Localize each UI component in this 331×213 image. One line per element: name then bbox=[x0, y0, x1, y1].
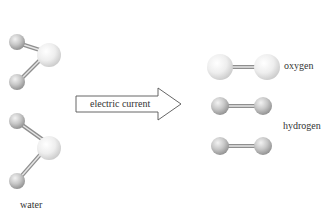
hydrogen-atom bbox=[211, 137, 229, 155]
oxygen-atom bbox=[207, 54, 233, 80]
oxygen-label: oxygen bbox=[284, 61, 313, 71]
oxygen-atom bbox=[37, 43, 61, 67]
hydrogen-atom bbox=[9, 74, 25, 90]
electrolysis-diagram bbox=[0, 0, 331, 213]
oxygen-atom bbox=[37, 136, 61, 160]
hydrogen-label: hydrogen bbox=[283, 121, 321, 131]
hydrogen-atom bbox=[9, 34, 25, 50]
hydrogen-atom bbox=[211, 97, 229, 115]
water-molecule-1 bbox=[9, 34, 61, 90]
water-molecule-2 bbox=[9, 113, 61, 189]
arrow-label: electric current bbox=[90, 99, 150, 109]
oxygen-molecule bbox=[207, 54, 280, 80]
hydrogen-molecule-1 bbox=[211, 97, 272, 115]
oxygen-atom bbox=[254, 54, 280, 80]
hydrogen-molecule-2 bbox=[211, 137, 272, 155]
water-label: water bbox=[20, 200, 42, 210]
hydrogen-atom bbox=[9, 113, 25, 129]
hydrogen-atom bbox=[9, 173, 25, 189]
hydrogen-atom bbox=[254, 97, 272, 115]
hydrogen-atom bbox=[254, 137, 272, 155]
